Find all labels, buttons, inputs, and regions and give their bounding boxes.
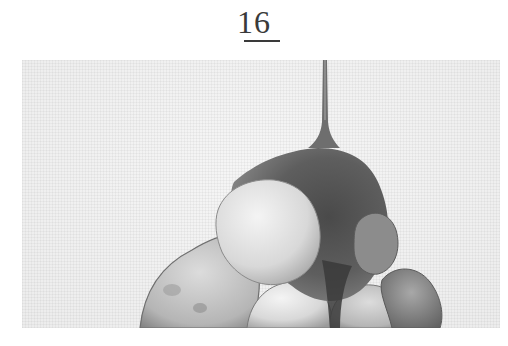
page-number-underline — [244, 40, 280, 42]
right-item — [381, 269, 442, 328]
food-illustration — [22, 60, 500, 328]
page-number: 16 — [0, 6, 508, 38]
illustration-artwork — [22, 60, 500, 328]
right-coated-item — [354, 213, 398, 274]
